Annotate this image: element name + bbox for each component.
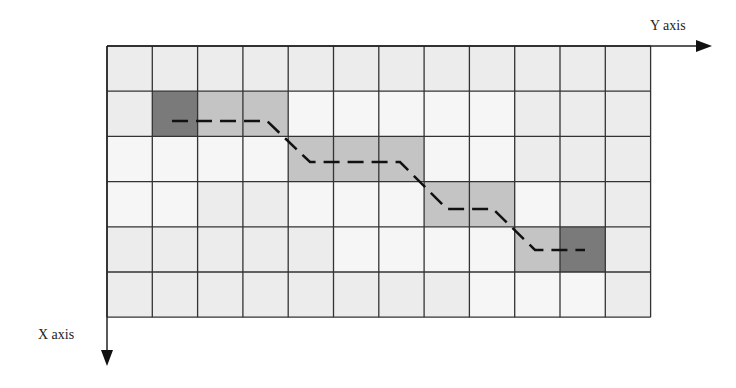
grid-cell — [379, 272, 424, 317]
grid-cell — [605, 91, 650, 136]
grid-cell — [152, 182, 197, 227]
warping-path-diagram — [0, 0, 736, 388]
grid-cell — [605, 136, 650, 181]
grid-cell — [152, 136, 197, 181]
grid-cell — [424, 227, 469, 272]
grid-cell — [243, 182, 288, 227]
grid-cell — [288, 91, 333, 136]
grid-cell — [379, 91, 424, 136]
grid-cell — [288, 182, 333, 227]
grid-cell — [379, 227, 424, 272]
y-axis-arrow-icon — [696, 40, 712, 52]
endpoint-cell — [152, 91, 197, 136]
grid-cell — [243, 272, 288, 317]
grid-cell — [469, 272, 514, 317]
grid-cell — [424, 91, 469, 136]
grid-cell — [560, 46, 605, 91]
grid-cell — [334, 46, 379, 91]
grid-cell — [605, 46, 650, 91]
grid-cell — [469, 227, 514, 272]
grid-cell — [198, 182, 243, 227]
grid-cell — [424, 46, 469, 91]
grid-cell — [469, 136, 514, 181]
grid-cell — [243, 136, 288, 181]
grid-cell — [379, 182, 424, 227]
grid-cell — [107, 136, 152, 181]
grid-cell — [334, 182, 379, 227]
grid-cell — [424, 136, 469, 181]
grid-cell — [107, 182, 152, 227]
grid-cell — [288, 227, 333, 272]
grid-cell — [334, 227, 379, 272]
grid-cell — [107, 91, 152, 136]
path-cell — [379, 136, 424, 181]
grid-cell — [107, 227, 152, 272]
grid-cell — [560, 182, 605, 227]
grid-cell — [605, 182, 650, 227]
grid-cell — [198, 136, 243, 181]
grid-cell — [243, 46, 288, 91]
grid-cell — [515, 46, 560, 91]
grid-cell — [334, 272, 379, 317]
grid-cell — [515, 272, 560, 317]
grid-cell — [152, 46, 197, 91]
x-axis-arrow-icon — [101, 350, 113, 366]
path-cell — [198, 91, 243, 136]
grid-cell — [515, 91, 560, 136]
grid-cell — [424, 272, 469, 317]
path-cell — [288, 136, 333, 181]
grid-cell — [515, 136, 560, 181]
grid-cell — [152, 227, 197, 272]
path-cell — [469, 182, 514, 227]
y-axis-label: Y axis — [650, 18, 686, 34]
grid-cell — [469, 91, 514, 136]
grid-cell — [107, 46, 152, 91]
grid-cell — [560, 136, 605, 181]
grid-cell — [198, 227, 243, 272]
grid-cell — [605, 227, 650, 272]
grid-cell — [288, 272, 333, 317]
grid-cell — [379, 46, 424, 91]
grid-cell — [198, 46, 243, 91]
path-cell — [424, 182, 469, 227]
grid-cell — [560, 272, 605, 317]
grid-cell — [469, 46, 514, 91]
grid-cell — [560, 91, 605, 136]
grid-cell — [334, 91, 379, 136]
grid-cell — [198, 272, 243, 317]
grid-cell — [605, 272, 650, 317]
grid-cell — [107, 272, 152, 317]
grid-cell — [515, 182, 560, 227]
path-cell — [334, 136, 379, 181]
grid-cell — [152, 272, 197, 317]
grid-cell — [288, 46, 333, 91]
x-axis-label: X axis — [38, 327, 74, 343]
path-cell — [243, 91, 288, 136]
grid-cell — [243, 227, 288, 272]
